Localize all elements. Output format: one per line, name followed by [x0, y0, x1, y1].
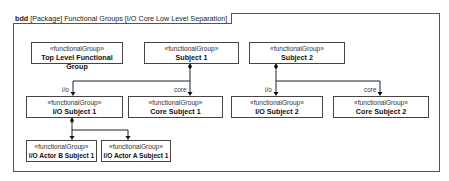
stereotype-label: «functionalGroup»: [129, 99, 222, 107]
block-name: Top Level Functional Group: [32, 53, 122, 71]
composition-diamond-icon: [70, 117, 74, 124]
block-name: I/O Subject 1: [27, 107, 122, 116]
block-io-actor-a-subject-1[interactable]: «functionalGroup» I/O Actor A Subject 1: [101, 140, 171, 162]
stereotype-label: «functionalGroup»: [250, 45, 344, 53]
block-name: I/O Subject 2: [232, 107, 322, 116]
block-name: Subject 2: [250, 53, 344, 62]
composition-diamond-icon: [274, 63, 278, 70]
block-name: I/O Actor A Subject 1: [102, 151, 170, 160]
block-name: Core Subject 2: [334, 107, 428, 116]
block-core-subject-1[interactable]: «functionalGroup» Core Subject 1: [128, 96, 223, 118]
block-name: Subject 1: [145, 53, 238, 62]
stereotype-label: «functionalGroup»: [27, 143, 96, 151]
role-label-io: i/o: [62, 86, 69, 94]
block-top-level-functional-group[interactable]: «functionalGroup» Top Level Functional G…: [31, 42, 123, 64]
block-io-actor-b-subject-1[interactable]: «functionalGroup» I/O Actor B Subject 1: [26, 140, 97, 162]
block-subject-1[interactable]: «functionalGroup» Subject 1: [144, 42, 239, 64]
stereotype-label: «functionalGroup»: [27, 99, 122, 107]
block-io-subject-1[interactable]: «functionalGroup» I/O Subject 1: [26, 96, 123, 118]
role-label-core: core: [174, 86, 186, 94]
stereotype-label: «functionalGroup»: [102, 143, 170, 151]
stereotype-label: «functionalGroup»: [145, 45, 238, 53]
stereotype-label: «functionalGroup»: [334, 99, 428, 107]
composition-diamond-icon: [188, 63, 192, 70]
role-label-core: core: [364, 86, 376, 94]
stereotype-label: «functionalGroup»: [232, 99, 322, 107]
stereotype-label: «functionalGroup»: [32, 45, 122, 53]
role-label-io: i/o: [265, 86, 272, 94]
block-name: I/O Actor B Subject 1: [27, 151, 96, 160]
block-subject-2[interactable]: «functionalGroup» Subject 2: [249, 42, 345, 64]
block-name: Core Subject 1: [129, 107, 222, 116]
block-io-subject-2[interactable]: «functionalGroup» I/O Subject 2: [231, 96, 323, 118]
block-core-subject-2[interactable]: «functionalGroup» Core Subject 2: [333, 96, 429, 118]
